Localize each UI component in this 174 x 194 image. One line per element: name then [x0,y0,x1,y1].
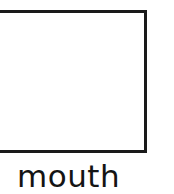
flashcard: mouth [0,0,174,194]
card-caption-label: mouth [0,158,174,194]
drawing-box[interactable] [0,10,147,153]
drawing-box-content[interactable] [0,13,144,150]
